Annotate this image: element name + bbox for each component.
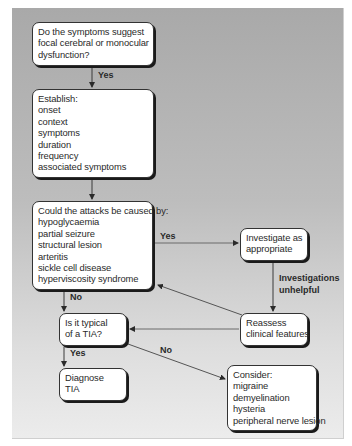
node-establish: Establish: onset context symptoms durati… xyxy=(32,89,154,178)
node-text: dysfunction? xyxy=(38,49,148,60)
edge-label-investigations-unhelpful-2: unhelpful xyxy=(279,285,320,296)
node-text: TIA xyxy=(65,383,121,394)
node-text: peripheral nerve lesion xyxy=(233,415,311,426)
node-text: clinical features xyxy=(246,328,302,339)
node-typical-tia: Is it typical of a TIA? xyxy=(59,313,127,346)
node-attacks-cause: Could the attacks be caused by: hypoglyc… xyxy=(32,201,153,290)
node-text: Establish: xyxy=(38,93,148,104)
node-text: partial seizure xyxy=(38,228,147,239)
node-diagnose-tia: Diagnose TIA xyxy=(59,368,127,401)
arrow-typical-to-consider xyxy=(128,344,225,379)
node-text: Could the attacks be caused by: xyxy=(38,205,147,216)
arrow-reassess-to-attacks xyxy=(158,285,242,315)
node-text: Consider: xyxy=(233,369,311,380)
edge-label-investigations-unhelpful-1: Investigations xyxy=(279,273,340,284)
node-text: sickle cell disease xyxy=(38,262,147,273)
node-text: Diagnose xyxy=(65,372,121,383)
node-text: hypoglycaemia xyxy=(38,216,147,227)
node-text: onset xyxy=(38,104,148,115)
node-text: context xyxy=(38,116,148,127)
node-text: structural lesion xyxy=(38,239,147,250)
node-text: Investigate as xyxy=(246,232,302,243)
node-text: Do the symptoms suggest xyxy=(38,26,148,37)
edge-label-typical-yes: Yes xyxy=(70,348,86,359)
node-text: hysteria xyxy=(233,403,311,414)
node-text: arteritis xyxy=(38,251,147,262)
node-text: frequency xyxy=(38,150,148,161)
node-investigate: Investigate as appropriate xyxy=(240,228,308,261)
node-text: duration xyxy=(38,139,148,150)
node-text: migraine xyxy=(233,380,311,391)
edge-label-attacks-no: No xyxy=(70,292,82,303)
node-text: of a TIA? xyxy=(65,328,121,339)
node-consider: Consider: migraine demyelination hysteri… xyxy=(227,365,317,431)
node-text: Is it typical xyxy=(65,317,121,328)
node-focal-question: Do the symptoms suggest focal cerebral o… xyxy=(32,22,154,66)
edge-label-typical-no: No xyxy=(160,345,172,356)
node-reassess: Reassess clinical features xyxy=(240,313,308,346)
node-text: hyperviscosity syndrome xyxy=(38,273,147,284)
node-text: Reassess xyxy=(246,317,302,328)
node-text: symptoms xyxy=(38,127,148,138)
node-text: appropriate xyxy=(246,243,302,254)
edge-label-attacks-yes: Yes xyxy=(160,231,176,242)
node-text: associated symptoms xyxy=(38,161,148,172)
node-text: demyelination xyxy=(233,392,311,403)
edge-label-focal-yes: Yes xyxy=(98,70,114,81)
node-text: focal cerebral or monocular xyxy=(38,37,148,48)
